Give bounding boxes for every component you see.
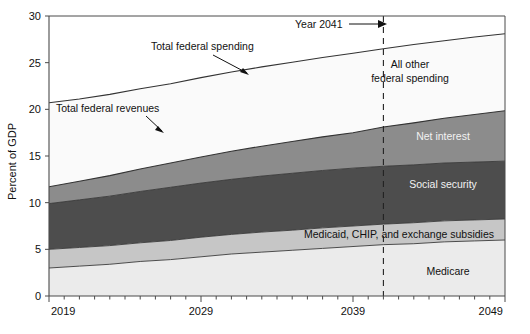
x-tick-label: 2019 [51, 305, 75, 317]
band-label-all-other-line2: federal spending [371, 72, 449, 84]
chart-container: 051015202530 2019202920392049 Percent of… [0, 0, 530, 334]
year-2041-label: Year 2041 [295, 18, 343, 30]
total-federal-revenues-label: Total federal revenues [56, 102, 159, 114]
y-tick-label: 20 [29, 103, 41, 115]
band-label-medicare: Medicare [426, 265, 469, 277]
band-label-all-other-line1: All other [391, 58, 430, 70]
y-tick-label: 30 [29, 10, 41, 22]
y-tick-label: 25 [29, 57, 41, 69]
y-tick-label: 0 [35, 290, 41, 302]
x-tick-label: 2039 [341, 305, 365, 317]
x-tick-label: 2029 [189, 305, 213, 317]
band-label-medicaid-chip: Medicaid, CHIP, and exchange subsidies [304, 228, 494, 240]
area-chart-svg: 051015202530 2019202920392049 Percent of… [0, 0, 530, 334]
band-label-social-security: Social security [409, 178, 477, 190]
y-tick-label: 10 [29, 197, 41, 209]
y-axis-title: Percent of GDP [6, 123, 18, 200]
band-label-net-interest: Net interest [416, 130, 470, 142]
y-tick-label: 15 [29, 150, 41, 162]
x-tick-label: 2049 [479, 305, 503, 317]
total-federal-spending-label: Total federal spending [151, 40, 254, 52]
y-tick-label: 5 [35, 243, 41, 255]
